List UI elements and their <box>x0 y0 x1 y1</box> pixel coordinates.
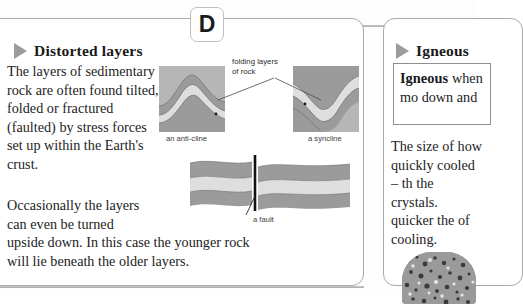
right-heading-label: Igneous <box>416 42 469 60</box>
fault-caption: a fault <box>253 215 274 224</box>
definition-term: Igneous <box>400 70 448 86</box>
right-panel-heading: Igneous <box>396 42 469 60</box>
left-heading-label: Distorted layers <box>34 42 143 60</box>
left-panel-heading: Distorted layers <box>14 42 143 60</box>
left-paragraph-3: upside down. In this case the younger ro… <box>7 233 255 270</box>
anticline-caption: an anti-cline <box>166 134 207 143</box>
section-marker-d: D <box>190 7 224 42</box>
granite-rock-photo <box>402 252 476 304</box>
triangle-right-icon <box>14 43 27 59</box>
bottom-divider-rule <box>0 286 364 288</box>
triangle-right-icon <box>396 43 409 59</box>
folding-layers-annotation: folding layers of rock <box>232 57 286 76</box>
anticline-diagram <box>159 66 225 136</box>
left-paragraph-2: Occasionally the layers can even be turn… <box>7 196 159 233</box>
syncline-caption: a syncline <box>308 134 342 143</box>
leader-line-anticline <box>218 78 276 102</box>
leader-line-syncline <box>275 78 323 102</box>
right-paragraph-1: The size of how quickly cooled – th the … <box>391 137 483 249</box>
definition-box-igneous: Igneous when mo down and <box>393 63 491 125</box>
fault-diagram <box>190 155 350 215</box>
left-paragraph-1: The layers of sedimentary rock are often… <box>7 62 159 174</box>
